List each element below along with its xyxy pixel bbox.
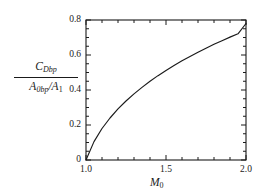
x-tick-label-0: 1.0 (72, 164, 100, 174)
y-tick-label-1: 0.2 (55, 119, 81, 129)
x-tick-label-2: 2.0 (232, 164, 260, 174)
plot-area (0, 0, 271, 196)
y-denominator-subscript-1: 0bp (36, 85, 48, 94)
y-tick-label-2: 0.4 (55, 84, 81, 94)
y-tick-label-0: 0 (55, 154, 81, 164)
y-numerator-subscript: Dbp (43, 65, 57, 74)
x-tick-label-1: 1.5 (152, 164, 180, 174)
x-axis-subscript: 0 (160, 181, 164, 190)
x-axis-label: M0 (150, 176, 164, 190)
x-axis-symbol: M (150, 176, 160, 188)
y-numerator-symbol: C (35, 60, 43, 72)
y-tick-label-4: 0.8 (55, 14, 81, 24)
y-tick-label-3: 0.6 (55, 49, 81, 59)
data-curve (86, 24, 246, 161)
figure-container: CDbp A0bp/A1 0 0.2 0.4 0.6 0.8 1.0 1.5 2… (0, 0, 271, 196)
fraction-bar (14, 77, 78, 78)
y-axis-label-numerator: CDbp (14, 60, 78, 76)
